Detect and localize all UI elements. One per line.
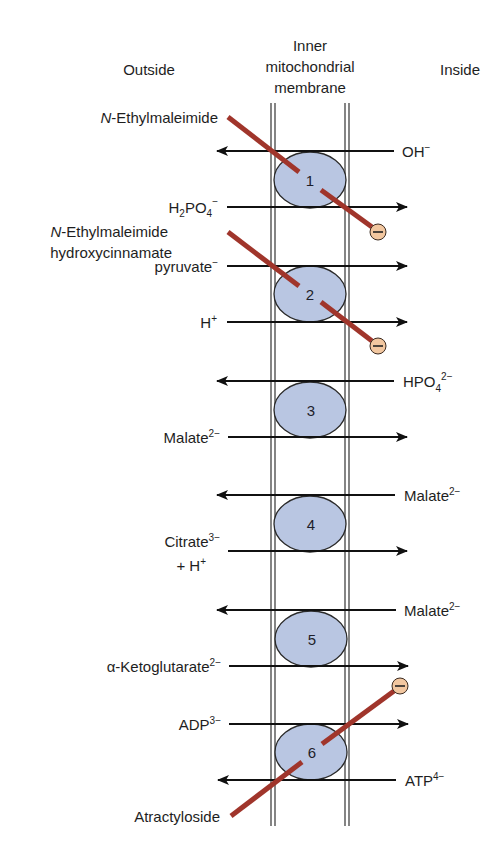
header: Outside Inner mitochondrial membrane Ins… — [123, 37, 480, 96]
inhibition-symbols — [370, 224, 408, 694]
inhibition-icon-3 — [392, 678, 408, 694]
label-pyruvate: pyruvate− — [155, 257, 219, 275]
inhibitor-bar-2a — [228, 232, 299, 286]
inside-substrate-labels: OH− HPO42− Malate2− Malate2− ATP4− — [402, 142, 461, 789]
label-hpo4: HPO42− — [403, 371, 453, 394]
transporter-number-6: 6 — [308, 744, 316, 761]
label-h-plus: H+ — [200, 313, 217, 331]
inhibitor-bar-3a — [231, 762, 302, 816]
label-citrate: Citrate3− — [164, 532, 220, 550]
inhibitor-bar-3b — [322, 691, 394, 744]
transporter-number-3: 3 — [307, 402, 315, 419]
membrane-label-line2: mitochondrial — [265, 58, 354, 75]
membrane-label-line1: Inner — [293, 37, 327, 54]
inhibitor-label-1: N-Ethylmaleimide — [100, 109, 218, 126]
inhibition-icon-2 — [370, 338, 386, 354]
label-malate-out-4: Malate2− — [404, 486, 461, 504]
outside-substrate-labels: H2PO4− pyruvate− H+ Malate2− Citrate3− +… — [107, 196, 221, 733]
inhibitor-bar-1b — [321, 190, 372, 227]
label-citrate-h: + H+ — [176, 556, 206, 574]
inhibitor-label-3: Atractyloside — [134, 808, 220, 825]
transporter-number-1: 1 — [306, 172, 314, 189]
inhibitor-label-2-line1: N-Ethylmaleimide — [50, 223, 168, 240]
inhibition-icon-1 — [370, 224, 386, 240]
transporter-numbers: 1 2 3 4 5 6 — [306, 172, 316, 761]
inhibitor-bar-1a — [228, 117, 299, 172]
inside-label: Inside — [440, 61, 480, 78]
transporter-number-5: 5 — [308, 631, 316, 648]
mitochondrial-transport-diagram: Outside Inner mitochondrial membrane Ins… — [0, 0, 502, 862]
label-h2po4: H2PO4− — [169, 196, 219, 219]
transporters — [274, 152, 347, 780]
membrane-label-line3: membrane — [274, 79, 346, 96]
label-adp: ADP3− — [179, 715, 221, 733]
label-oh: OH− — [402, 142, 431, 160]
label-malate-in: Malate2− — [164, 428, 221, 446]
transporter-number-4: 4 — [307, 516, 315, 533]
transporter-number-2: 2 — [306, 286, 314, 303]
inhibitor-bars — [228, 117, 394, 816]
label-ketoglutarate: α-Ketoglutarate2− — [107, 657, 221, 675]
label-malate-out-5: Malate2− — [404, 601, 461, 619]
outside-label: Outside — [123, 61, 175, 78]
inner-membrane — [271, 103, 349, 826]
label-atp: ATP4− — [405, 771, 445, 789]
